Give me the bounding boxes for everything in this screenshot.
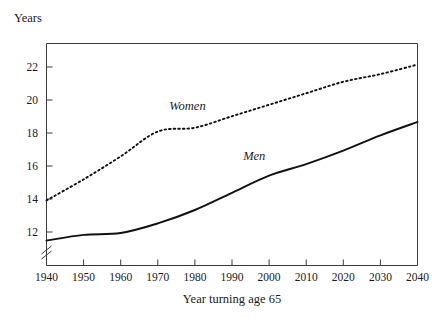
y-tick-label: 22	[27, 61, 39, 73]
y-tick-label: 12	[27, 226, 39, 238]
series-label-men: Men	[242, 149, 265, 163]
x-tick-label: 2020	[332, 271, 355, 283]
series-line-men	[47, 122, 418, 241]
x-tick-label: 1960	[109, 271, 132, 283]
x-axis-title: Year turning age 65	[183, 292, 281, 306]
y-axis-ticks	[47, 67, 53, 232]
x-axis-ticks	[47, 260, 418, 266]
chart-page: 22 20 18 16 14 12 1940 1950 1960 1970 19…	[0, 0, 446, 318]
y-axis-tick-labels: 22 20 18 16 14 12	[27, 61, 39, 238]
y-axis-title: Years	[14, 11, 42, 25]
plot-frame	[47, 44, 418, 266]
y-tick-label: 20	[27, 94, 39, 106]
series-paths	[47, 65, 418, 241]
life-expectancy-line-chart: 22 20 18 16 14 12 1940 1950 1960 1970 19…	[0, 0, 446, 318]
x-axis-tick-labels: 1940 1950 1960 1970 1980 1990 2000 2010 …	[35, 271, 429, 283]
series-annotations: Women Men	[169, 99, 265, 163]
x-tick-label: 2040	[406, 271, 429, 283]
y-tick-label: 18	[27, 127, 39, 139]
x-tick-label: 2010	[295, 271, 318, 283]
x-tick-label: 1950	[72, 271, 95, 283]
x-tick-label: 2030	[369, 271, 392, 283]
series-label-women: Women	[169, 99, 205, 113]
x-tick-label: 1970	[146, 271, 169, 283]
x-tick-label: 1990	[221, 271, 244, 283]
x-tick-label: 2000	[258, 271, 281, 283]
series-line-women	[47, 65, 418, 201]
y-tick-label: 14	[27, 193, 39, 205]
y-tick-label: 16	[27, 160, 39, 172]
x-tick-label: 1940	[35, 271, 58, 283]
x-tick-label: 1980	[183, 271, 206, 283]
